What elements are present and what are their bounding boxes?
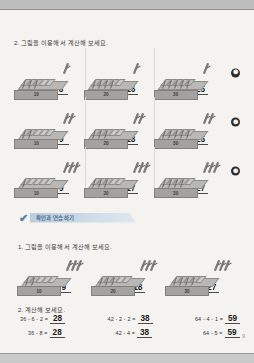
unit-cubes [163, 178, 193, 186]
calculation-answer[interactable]: 59 [225, 329, 240, 338]
equation: 42 - 2 - 2 =38 [107, 315, 152, 324]
unit-cubes [93, 79, 123, 87]
slab-value-label: 20 [84, 188, 128, 198]
problem-row: 1011 - 3 =82021 - 5 =163031 - 6 =25❶ [16, 48, 224, 97]
crossed-sticks [65, 63, 83, 79]
equation: 36 - 6 - 2 =28 [20, 315, 65, 324]
block-illustration: 20 [87, 105, 153, 135]
calculation-expression: 36 - 8 = [28, 330, 48, 336]
problem-cell: 3033 - 6 =27 [154, 147, 224, 196]
crossed-sticks [205, 162, 223, 178]
calculation-answer[interactable]: 28 [50, 315, 65, 324]
problem-row: 1012 - 3 =92022 - 4 =183032 - 7 =25❷ [16, 97, 224, 146]
calculation-answer[interactable]: 38 [138, 315, 153, 324]
crossed-stick-icon [203, 63, 209, 74]
crossed-stick-icon [138, 113, 144, 124]
crossed-sticks [135, 63, 153, 79]
unit-cubes [26, 276, 56, 284]
equation: 64 - 4 - 1 =59 [195, 315, 240, 324]
unit-cubes [23, 79, 53, 87]
calculation-column: 64 - 4 - 1 =5964 - 5 =59 [195, 315, 240, 338]
problem-grid: 1011 - 3 =82021 - 5 =163031 - 6 =25❶1012… [16, 48, 224, 196]
worksheet-page: 2. 그림을 이용해서 계산해 보세요. 1011 - 3 =82021 - 5… [0, 0, 254, 363]
crossed-sticks [205, 63, 223, 79]
worksheet-sheet: 2. 그림을 이용해서 계산해 보세요. 1011 - 3 =82021 - 5… [0, 10, 254, 353]
problem-cell: 3032 - 7 =25 [154, 97, 224, 146]
unit-cubes [93, 129, 123, 137]
slab-value-label: 20 [91, 286, 135, 296]
practice-cell: 1014 - 5 =9 [16, 252, 90, 293]
calculation-expression: 42 - 4 = [115, 330, 135, 336]
bottom-band [0, 353, 254, 363]
calculation-grid: 36 - 6 - 2 =2836 - 8 =2842 - 2 - 2 =3842… [20, 315, 240, 338]
problem-cell: 1013 - 4 =9 [16, 147, 85, 196]
calculation-answer[interactable]: 38 [137, 329, 152, 338]
calculation-expression: 64 - 4 - 1 = [195, 316, 223, 322]
block-illustration: 20 [87, 154, 153, 184]
calculation-expression: 36 - 6 - 2 = [20, 316, 48, 322]
slab-value-label: 10 [14, 188, 58, 198]
unit-cubes [23, 129, 53, 137]
block-illustration: 30 [157, 154, 223, 184]
problem-cell: 2021 - 5 =16 [85, 48, 155, 97]
unit-cubes [163, 129, 193, 137]
block-illustration: 30 [157, 55, 223, 85]
crossed-sticks [142, 260, 160, 276]
crossed-sticks [65, 113, 83, 129]
calculation-answer[interactable]: 28 [50, 329, 65, 338]
problem-cell: 3031 - 6 =25 [154, 48, 224, 97]
banner-title: 확인과 연습하기 [36, 214, 74, 222]
problem-cell: 2022 - 4 =18 [85, 97, 155, 146]
calculation-expression: 64 - 5 = [203, 330, 223, 336]
equation: 36 - 8 =28 [20, 329, 65, 338]
practice-cell: 3034 - 7 =27 [164, 252, 238, 293]
calculation-column: 36 - 6 - 2 =2836 - 8 =28 [20, 315, 65, 338]
row-number-badge: ❸ [231, 167, 240, 176]
top-band [0, 0, 254, 9]
block-illustration: 10 [17, 154, 83, 184]
unit-cubes [23, 178, 53, 186]
crossed-stick-icon [68, 113, 74, 124]
row-number-badge: ❶ [231, 68, 240, 77]
calculation-expression: 42 - 2 - 2 = [107, 316, 135, 322]
crossed-stick-icon [133, 63, 139, 74]
equation: 42 - 4 =38 [107, 329, 152, 338]
block-illustration: 30 [168, 252, 234, 282]
crossed-sticks [65, 162, 83, 178]
unit-cubes [93, 178, 123, 186]
problem-row: 1013 - 4 =92023 - 6 =173033 - 6 =27❸ [16, 147, 224, 196]
check-icon: ✔ [16, 211, 30, 225]
unit-cubes [163, 79, 193, 87]
slab-value-label: 30 [154, 188, 198, 198]
crossed-sticks [68, 260, 86, 276]
problem-cell: 2023 - 6 =17 [85, 147, 155, 196]
block-illustration: 10 [17, 105, 83, 135]
calculation-answer[interactable]: 59 [225, 315, 240, 324]
crossed-sticks [135, 113, 153, 129]
calculation-column: 42 - 2 - 2 =3842 - 4 =38 [107, 315, 152, 338]
block-illustration: 30 [157, 105, 223, 135]
block-illustration: 20 [87, 55, 153, 85]
banner-bar: 확인과 연습하기 [30, 213, 136, 223]
calculation-heading: 2. 계산해 보세요. [18, 305, 65, 314]
block-illustration: 10 [17, 55, 83, 85]
block-illustration: 20 [94, 252, 160, 282]
practice-grid: 1014 - 5 =92024 - 6 =183034 - 7 =27 [16, 252, 238, 293]
equation: 64 - 5 =59 [195, 329, 240, 338]
slab-value-label: 30 [165, 286, 209, 296]
problem-cell: 1012 - 3 =9 [16, 97, 85, 146]
crossed-sticks [205, 113, 223, 129]
row-number-badge: ❷ [231, 117, 240, 126]
unit-cubes [100, 276, 130, 284]
crossed-sticks [135, 162, 153, 178]
practice-cell: 2024 - 6 =18 [90, 252, 164, 293]
practice-banner: ✔ 확인과 연습하기 [16, 210, 136, 225]
crossed-sticks [216, 260, 234, 276]
crossed-stick-icon [143, 162, 149, 173]
slab-value-label: 10 [17, 286, 61, 296]
unit-cubes [174, 276, 204, 284]
section-2-heading: 2. 그림을 이용해서 계산해 보세요. [14, 38, 108, 47]
practice-heading: 1. 그림을 이용해서 계산해 보세요. [18, 242, 112, 251]
page-number: 9 [242, 333, 245, 339]
problem-cell: 1011 - 3 =8 [16, 48, 85, 97]
